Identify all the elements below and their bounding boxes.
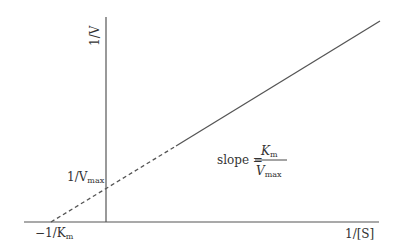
x-axis-label: 1/[S]: [345, 227, 374, 241]
y-axis-label: 1/V: [88, 25, 102, 46]
y-intercept-label: 1/Vmax: [67, 170, 105, 185]
svg-text:Vmax: Vmax: [256, 164, 282, 179]
data-line: [176, 21, 380, 146]
svg-text:Km: Km: [260, 144, 278, 159]
lineweaver-burk-plot: 1/V 1/Vmax −1/Km 1/[S] slope = Km Vmax: [0, 0, 401, 252]
slope-annotation: slope = Km Vmax: [217, 144, 287, 179]
extrapolated-line: [51, 146, 176, 222]
x-intercept-label: −1/Km: [35, 226, 74, 241]
